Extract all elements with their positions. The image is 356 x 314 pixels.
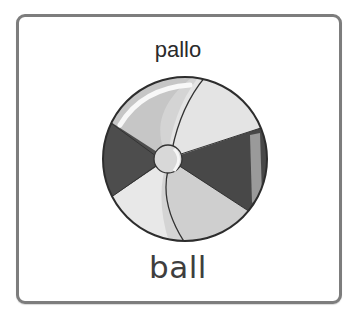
english-word: ball — [0, 249, 356, 285]
beach-ball-icon — [100, 75, 270, 245]
finnish-word: pallo — [0, 37, 356, 63]
